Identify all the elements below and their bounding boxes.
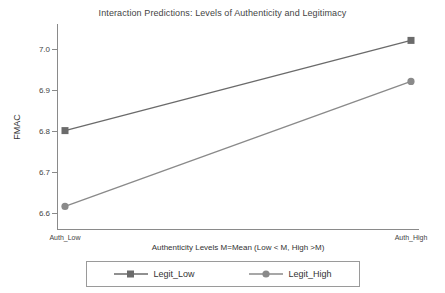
data-point-square <box>62 127 69 134</box>
legend-swatch-circle <box>249 269 283 279</box>
x-axis-title: Authenticity Levels M=Mean (Low < M, Hig… <box>57 243 419 252</box>
y-tick-label: 6.9 <box>39 85 50 94</box>
legend-label-legit-low: Legit_Low <box>153 269 194 279</box>
series-layer <box>57 24 419 229</box>
data-point-circle <box>61 203 68 210</box>
y-axis-title: FMAC <box>10 24 24 229</box>
y-tick-label: 6.7 <box>39 167 50 176</box>
y-tick-label: 6.6 <box>39 208 50 217</box>
series-line <box>65 81 411 206</box>
x-tick-label: Auth_Low <box>49 234 80 241</box>
y-tick-label: 7.0 <box>39 44 50 53</box>
x-tick-label: Auth_High <box>395 234 428 241</box>
series-line <box>65 40 411 130</box>
chart-legend: Legit_Low Legit_High <box>86 261 360 287</box>
y-axis-title-label: FMAC <box>12 114 22 140</box>
chart-title: Interaction Predictions: Levels of Authe… <box>0 8 445 18</box>
legend-item-legit-high[interactable]: Legit_High <box>249 269 331 279</box>
data-point-square <box>408 37 415 44</box>
legend-label-legit-high: Legit_High <box>288 269 331 279</box>
x-axis-line <box>57 229 419 230</box>
chart-container: Interaction Predictions: Levels of Authe… <box>0 0 445 293</box>
plot-area: 6.66.76.86.97.0 Auth_LowAuth_High <box>57 24 419 229</box>
legend-item-legit-low[interactable]: Legit_Low <box>114 269 194 279</box>
legend-swatch-square <box>114 269 148 279</box>
data-point-circle <box>407 78 414 85</box>
y-tick-label: 6.8 <box>39 126 50 135</box>
